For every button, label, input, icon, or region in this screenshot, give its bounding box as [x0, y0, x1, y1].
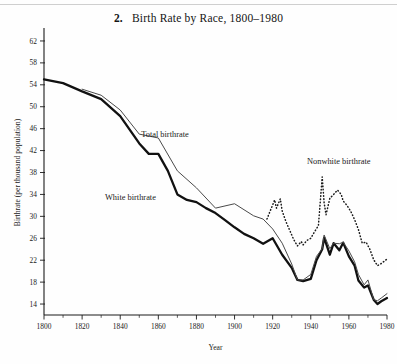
- y-tick-label: 22: [30, 256, 38, 265]
- y-tick-label: 18: [30, 278, 38, 287]
- x-tick-group: 1800182018401860188019001920194019601980: [37, 315, 395, 331]
- y-tick-group: 14182226303438424650545862: [30, 37, 45, 309]
- x-tick-label: 1820: [75, 322, 90, 331]
- birthrate-line-chart: 14182226303438424650545862 1800182018401…: [0, 0, 397, 364]
- y-tick-label: 58: [30, 58, 38, 67]
- x-axis: 1800182018401860188019001920194019601980: [37, 315, 395, 331]
- y-tick-label: 14: [30, 300, 38, 309]
- x-tick-label: 1940: [303, 322, 318, 331]
- x-tick-label: 1920: [265, 322, 280, 331]
- x-tick-label: 1880: [189, 322, 204, 331]
- chart-area: 14182226303438424650545862 1800182018401…: [0, 0, 397, 364]
- y-axis-title: Birthrate (per thousand population): [13, 118, 22, 226]
- y-tick-label: 50: [30, 102, 38, 111]
- series-annotation: Nonwhite birthrate: [307, 157, 371, 166]
- x-tick-label: 1800: [37, 322, 52, 331]
- x-tick-label: 1960: [341, 322, 356, 331]
- series-annotation: Total birthrate: [141, 130, 189, 139]
- figure-page: 2.Birth Rate by Race, 1800–1980 14182226…: [0, 0, 397, 364]
- y-tick-label: 42: [30, 146, 38, 155]
- y-tick-label: 54: [30, 80, 38, 89]
- y-tick-label: 30: [30, 212, 38, 221]
- series-line-nonwhite-birthrate: [267, 177, 387, 266]
- series-annotation: White birthrate: [105, 193, 156, 202]
- y-axis: 14182226303438424650545862: [30, 28, 45, 315]
- series-group: [44, 79, 387, 304]
- y-tick-label: 26: [30, 234, 38, 243]
- x-tick-label: 1840: [113, 322, 128, 331]
- x-tick-label: 1980: [380, 322, 395, 331]
- y-tick-label: 62: [30, 37, 38, 46]
- x-axis-title: Year: [209, 343, 223, 352]
- annotation-group: Total birthrateWhite birthrateNonwhite b…: [105, 130, 371, 202]
- y-tick-label: 38: [30, 168, 38, 177]
- x-tick-label: 1900: [227, 322, 242, 331]
- y-tick-label: 34: [30, 190, 38, 199]
- y-tick-label: 46: [30, 124, 38, 133]
- x-tick-label: 1860: [151, 322, 166, 331]
